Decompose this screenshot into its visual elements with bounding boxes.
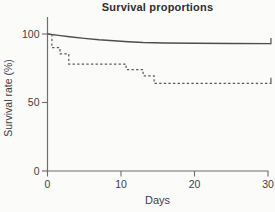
y-tick-label: 0 [34,165,40,177]
x-tick-label: 20 [189,178,201,190]
y-tick-label: 50 [28,96,40,108]
x-tick-label: 30 [262,178,274,190]
y-tick-label: 100 [22,28,40,40]
plot-area: 0501000102030 [0,0,275,212]
series-path-group-2-dashed [48,34,271,83]
x-tick-label: 0 [45,178,51,190]
survival-chart: Survival proportions Survival rate (%) D… [0,0,275,212]
series-path-group-1-solid [48,34,271,44]
x-tick-label: 10 [115,178,127,190]
